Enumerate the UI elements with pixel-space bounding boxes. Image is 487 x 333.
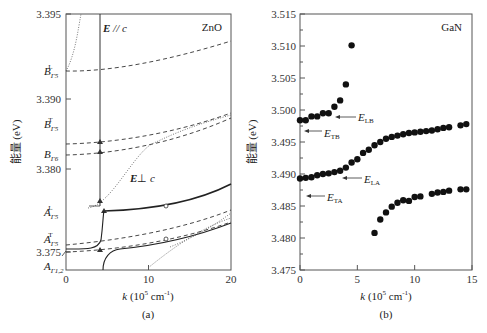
- panel-a-x-ticks: 0 10 20: [63, 265, 237, 285]
- figure: 3.395 3.390 3.380 3.375 0 10 20 BΓ5L BΓ5…: [0, 0, 487, 333]
- data-point: [331, 104, 337, 110]
- panel-a-x-axis-label: k (105 cm-1): [122, 289, 174, 303]
- data-point: [417, 129, 423, 135]
- data-point: [325, 170, 331, 176]
- data-point: [314, 113, 320, 119]
- data-point: [343, 81, 349, 87]
- data-point: [400, 131, 406, 137]
- x-tick-label: 0: [63, 273, 69, 285]
- data-point: [308, 113, 314, 119]
- data-point: [423, 128, 429, 134]
- data-point: [411, 129, 417, 135]
- y-tick-label: 3.475: [271, 264, 296, 276]
- data-point: [440, 189, 446, 195]
- data-point: [463, 121, 469, 127]
- data-point: [400, 197, 406, 203]
- data-point: [366, 146, 372, 152]
- panel-a-curves: [66, 14, 231, 270]
- svg-text:BΓ5T: BΓ5T: [44, 116, 59, 133]
- x-tick-label: 10: [409, 273, 421, 285]
- annotation-e-perp-c: E⊥ c: [129, 172, 155, 184]
- data-point: [320, 110, 326, 116]
- data-point: [331, 169, 337, 175]
- data-point: [348, 159, 354, 165]
- data-point: [434, 126, 440, 132]
- data-point: [406, 130, 412, 136]
- data-point: [434, 189, 440, 195]
- y-tick-label: 3.495: [271, 136, 296, 148]
- panel-b-x-axis-label: k (105 cm-1): [360, 289, 412, 303]
- data-point: [383, 136, 389, 142]
- data-point: [360, 150, 366, 156]
- data-point: [343, 164, 349, 170]
- data-point: [429, 127, 435, 133]
- y-tick-label: 3.500: [271, 104, 296, 116]
- label-e-tb: ETB: [323, 127, 340, 141]
- svg-text:AΓ5L: AΓ5L: [43, 204, 59, 221]
- y-tick-label: 3.380: [36, 163, 61, 175]
- y-tick-label: 3.485: [271, 200, 296, 212]
- x-tick-label: 20: [226, 273, 238, 285]
- y-tick-label: 3.505: [271, 72, 296, 84]
- x-tick-label: 15: [467, 273, 479, 285]
- data-point: [325, 110, 331, 116]
- data-point: [354, 156, 360, 162]
- label-e-ta: ETA: [326, 191, 343, 205]
- data-point: [337, 97, 343, 103]
- label-e-lb: ELB: [357, 111, 374, 125]
- data-point: [440, 125, 446, 131]
- data-point: [297, 117, 303, 123]
- data-point: [389, 203, 395, 209]
- data-point: [457, 186, 463, 192]
- data-point: [406, 198, 412, 204]
- panel-b-gan: 3.4753.4803.4853.4903.4953.5003.5053.510…: [245, 8, 478, 321]
- data-point: [429, 191, 435, 197]
- y-tick-label: 3.490: [271, 168, 296, 180]
- data-point: [371, 142, 377, 148]
- data-point: [446, 124, 452, 130]
- data-point: [394, 200, 400, 206]
- data-point: [411, 194, 417, 200]
- panel-a-zno: 3.395 3.390 3.380 3.375 0 10 20 BΓ5L BΓ5…: [9, 8, 237, 321]
- data-point: [389, 134, 395, 140]
- data-point: [383, 209, 389, 215]
- data-point: [371, 230, 377, 236]
- data-point: [394, 132, 400, 138]
- panel-b-data-points: [297, 42, 470, 236]
- panel-a-title: ZnO: [202, 21, 222, 33]
- x-tick-label: 10: [143, 273, 155, 285]
- x-tick-label: 5: [355, 273, 361, 285]
- data-point: [377, 139, 383, 145]
- data-point: [308, 174, 314, 180]
- y-tick-label: 3.390: [36, 93, 61, 105]
- data-point: [297, 175, 303, 181]
- data-point: [446, 187, 452, 193]
- data-point: [457, 122, 463, 128]
- y-tick-label: 3.515: [271, 8, 296, 20]
- data-point: [303, 117, 309, 123]
- panel-b-annotations: ELB ETB ELA ETA: [304, 111, 380, 205]
- panel-b-caption: (b): [380, 308, 393, 321]
- panel-b-y-axis-label: 能量 (eV): [245, 119, 259, 164]
- svg-text:BΓ6: BΓ6: [44, 148, 59, 163]
- y-tick-label: 3.480: [271, 232, 296, 244]
- data-point: [314, 172, 320, 178]
- panel-a-y-axis-label: 能量 (eV): [9, 119, 23, 164]
- y-tick-label: 3.510: [271, 40, 296, 52]
- data-point: [320, 171, 326, 177]
- panel-a-caption: (a): [142, 308, 155, 321]
- x-tick-label: 0: [297, 273, 303, 285]
- panel-b-title: GaN: [441, 21, 462, 33]
- label-e-la: ELA: [363, 173, 380, 187]
- data-point: [417, 193, 423, 199]
- data-point: [337, 168, 343, 174]
- data-point: [377, 216, 383, 222]
- data-point: [303, 175, 309, 181]
- data-point: [463, 186, 469, 192]
- data-point: [348, 42, 354, 48]
- annotation-e-parallel-c: E // c: [102, 22, 127, 34]
- svg-text:BΓ5L: BΓ5L: [44, 63, 59, 80]
- svg-text:AΓ1,2: AΓ1,2: [43, 260, 64, 275]
- y-tick-label: 3.395: [36, 8, 61, 20]
- panel-b-x-ticks: 051015: [297, 265, 478, 285]
